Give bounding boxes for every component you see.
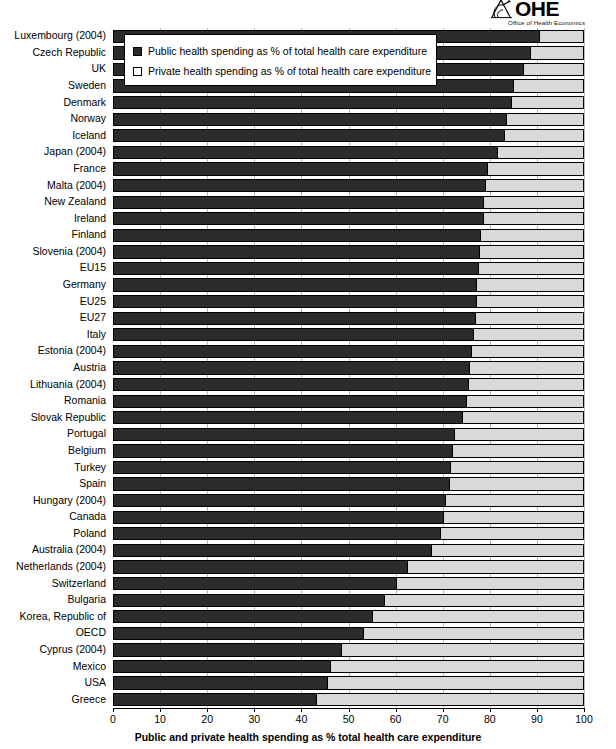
bar-row[interactable]	[113, 278, 584, 291]
bar-segment-private[interactable]	[450, 461, 584, 474]
bar-row[interactable]	[113, 196, 584, 209]
bar-segment-public[interactable]	[113, 594, 384, 607]
bar-segment-public[interactable]	[113, 278, 476, 291]
bar-row[interactable]	[113, 295, 584, 308]
bar-segment-private[interactable]	[440, 527, 584, 540]
bar-segment-public[interactable]	[113, 96, 511, 109]
bar-segment-private[interactable]	[480, 229, 584, 242]
bar-row[interactable]	[113, 627, 584, 640]
bar-segment-private[interactable]	[504, 129, 584, 142]
bar-segment-private[interactable]	[466, 395, 584, 408]
bar-row[interactable]	[113, 328, 584, 341]
bar-segment-private[interactable]	[431, 544, 584, 557]
bar-segment-public[interactable]	[113, 146, 497, 159]
bar-segment-public[interactable]	[113, 461, 450, 474]
bar-row[interactable]	[113, 395, 584, 408]
bar-row[interactable]	[113, 676, 584, 689]
bar-segment-private[interactable]	[327, 676, 584, 689]
bar-row[interactable]	[113, 594, 584, 607]
bar-segment-public[interactable]	[113, 312, 475, 325]
bar-segment-public[interactable]	[113, 245, 479, 258]
bar-segment-public[interactable]	[113, 129, 504, 142]
bar-row[interactable]	[113, 378, 584, 391]
bar-segment-private[interactable]	[523, 63, 584, 76]
bar-segment-public[interactable]	[113, 196, 483, 209]
bar-segment-private[interactable]	[475, 312, 584, 325]
bar-segment-public[interactable]	[113, 627, 363, 640]
bar-segment-private[interactable]	[471, 345, 584, 358]
bar-row[interactable]	[113, 577, 584, 590]
bar-segment-private[interactable]	[476, 278, 584, 291]
bar-segment-private[interactable]	[487, 162, 584, 175]
bar-row[interactable]	[113, 544, 584, 557]
bar-row[interactable]	[113, 262, 584, 275]
bar-segment-private[interactable]	[511, 96, 584, 109]
bar-segment-public[interactable]	[113, 693, 316, 706]
bar-row[interactable]	[113, 96, 584, 109]
bar-segment-private[interactable]	[443, 511, 584, 524]
bar-segment-public[interactable]	[113, 179, 485, 192]
bar-row[interactable]	[113, 527, 584, 540]
bar-segment-public[interactable]	[113, 378, 468, 391]
bar-row[interactable]	[113, 212, 584, 225]
bar-segment-private[interactable]	[539, 30, 584, 43]
bar-segment-private[interactable]	[407, 560, 584, 573]
bar-segment-private[interactable]	[497, 146, 584, 159]
bar-row[interactable]	[113, 477, 584, 490]
bar-row[interactable]	[113, 428, 584, 441]
bar-row[interactable]	[113, 660, 584, 673]
bar-segment-public[interactable]	[113, 477, 449, 490]
bar-segment-public[interactable]	[113, 577, 396, 590]
bar-segment-private[interactable]	[396, 577, 584, 590]
bar-segment-public[interactable]	[113, 395, 466, 408]
bar-segment-private[interactable]	[445, 494, 584, 507]
bar-row[interactable]	[113, 129, 584, 142]
bar-segment-private[interactable]	[372, 610, 584, 623]
bar-segment-private[interactable]	[363, 627, 584, 640]
bar-row[interactable]	[113, 511, 584, 524]
bar-row[interactable]	[113, 560, 584, 573]
bar-segment-public[interactable]	[113, 544, 431, 557]
bar-segment-private[interactable]	[452, 444, 584, 457]
bar-segment-public[interactable]	[113, 444, 452, 457]
bar-segment-private[interactable]	[530, 46, 584, 59]
bar-row[interactable]	[113, 411, 584, 424]
bar-row[interactable]	[113, 179, 584, 192]
bar-row[interactable]	[113, 643, 584, 656]
bar-segment-public[interactable]	[113, 361, 469, 374]
bar-row[interactable]	[113, 345, 584, 358]
bar-row[interactable]	[113, 312, 584, 325]
bar-row[interactable]	[113, 461, 584, 474]
bar-row[interactable]	[113, 162, 584, 175]
bar-row[interactable]	[113, 113, 584, 126]
bar-segment-private[interactable]	[341, 643, 584, 656]
bar-segment-private[interactable]	[449, 477, 584, 490]
bar-segment-public[interactable]	[113, 560, 407, 573]
bar-segment-public[interactable]	[113, 229, 480, 242]
bar-segment-private[interactable]	[473, 328, 584, 341]
bar-segment-private[interactable]	[454, 428, 584, 441]
bar-row[interactable]	[113, 361, 584, 374]
bar-segment-private[interactable]	[476, 295, 584, 308]
bar-row[interactable]	[113, 444, 584, 457]
bar-segment-public[interactable]	[113, 295, 476, 308]
bar-segment-public[interactable]	[113, 643, 341, 656]
bar-segment-public[interactable]	[113, 212, 483, 225]
bar-row[interactable]	[113, 494, 584, 507]
bar-segment-private[interactable]	[462, 411, 584, 424]
bar-segment-public[interactable]	[113, 428, 454, 441]
bar-segment-private[interactable]	[468, 378, 584, 391]
bar-segment-private[interactable]	[485, 179, 584, 192]
bar-segment-private[interactable]	[330, 660, 584, 673]
bar-segment-public[interactable]	[113, 660, 330, 673]
bar-segment-public[interactable]	[113, 527, 440, 540]
bar-segment-private[interactable]	[469, 361, 584, 374]
bar-segment-public[interactable]	[113, 411, 462, 424]
bar-row[interactable]	[113, 610, 584, 623]
bar-segment-private[interactable]	[506, 113, 584, 126]
bar-segment-private[interactable]	[483, 212, 584, 225]
bar-segment-private[interactable]	[483, 196, 584, 209]
bar-row[interactable]	[113, 229, 584, 242]
bar-segment-private[interactable]	[316, 693, 584, 706]
bar-segment-public[interactable]	[113, 162, 487, 175]
